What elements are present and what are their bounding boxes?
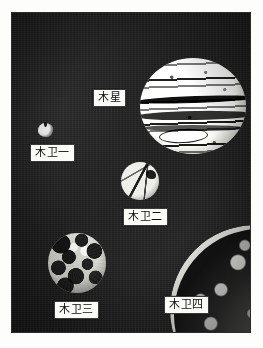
celestial-body-io bbox=[38, 123, 53, 137]
label-io: 木卫一 bbox=[30, 144, 75, 162]
celestial-body-jupiter bbox=[140, 58, 246, 154]
callisto-bright-limb bbox=[170, 225, 250, 332]
celestial-body-ganymede bbox=[48, 233, 106, 293]
europa-limb-shading bbox=[121, 162, 159, 200]
celestial-body-callisto bbox=[170, 225, 250, 332]
jupiter-limb-shading bbox=[140, 58, 246, 154]
label-ganymede: 木卫三 bbox=[54, 301, 99, 319]
figure-root: 木星 木卫一 木卫二 木卫三 木卫四 bbox=[0, 0, 263, 348]
photo-plate: 木星 木卫一 木卫二 木卫三 木卫四 bbox=[12, 13, 250, 332]
label-europa: 木卫二 bbox=[123, 208, 168, 226]
io-shape-notch bbox=[44, 122, 47, 127]
label-callisto: 木卫四 bbox=[164, 296, 209, 314]
ganymede-limb-shading bbox=[48, 233, 106, 293]
celestial-body-europa bbox=[121, 162, 159, 200]
label-jupiter: 木星 bbox=[93, 89, 126, 107]
